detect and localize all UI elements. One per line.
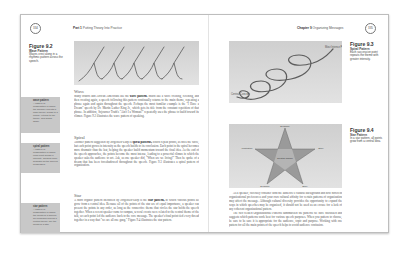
margin-definition-wave: wave pattern A pattern of organization i… [21,97,60,133]
wave-diagram-icon [74,41,199,85]
figure-description: Each successive point repeats the theme … [350,51,386,61]
figure-description: In a star pattern, all points grow from … [350,137,386,144]
running-head-right: Chapter 9 Organizing Messages [297,26,343,30]
margin-definition-star: star pattern A pattern of organization i… [21,203,60,233]
spiral-diagram-icon: Central Concept Most Intense Point [229,41,342,103]
svg-text:Story: Story [318,147,324,150]
star-diagram-icon: Example Illustration Story Example Story… [229,124,342,188]
figure-description: Waves crest along in a rhythmic pattern … [29,53,63,63]
section-body-wave: Many orators and African Americans use t… [74,95,199,131]
textbook-spread: 334 Part 1 Putting Theory Into Practice … [20,14,389,233]
wave-pattern-figure [74,41,199,85]
svg-text:Example: Example [260,185,270,188]
margin-definition-spiral: spiral pattern A pattern of organization… [21,143,60,173]
running-head-title: Putting Theory Into Practice [83,26,122,30]
section-heading-spiral: Spiral [74,135,85,140]
running-head-title: Organizing Messages [313,26,344,30]
section-heading-wave: Wave [74,89,84,94]
paragraph-summary: The two related Organizational Patterns … [229,212,342,231]
running-head-left: Part 1 Putting Theory Into Practice [73,26,122,30]
svg-text:Most Intense Point: Most Intense Point [325,45,342,49]
page-number-right: 335 [365,23,376,34]
section-body-spiral: Another pattern suggested by Jorgensen-E… [74,141,199,188]
definition-text: A pattern of organization in which the s… [33,102,58,123]
svg-text:Example: Example [280,125,290,128]
spiral-pattern-figure: Central Concept Most Intense Point [229,41,342,103]
definition-text: A pattern of organization in which each … [33,148,58,166]
section-heading-star: Star [74,193,81,198]
svg-text:Story: Story [302,185,308,188]
svg-text:Illustration: Illustration [242,147,254,150]
page-number-left: 334 [30,23,41,34]
section-body-star: A third organic pattern identified by Jo… [74,199,199,231]
running-head-chapter: Chapter 9 [297,26,312,30]
figure-caption-wave: Figure 9.2 Wave Pattern Waves crest alon… [29,43,63,63]
svg-text:Central Concept: Central Concept [231,92,250,96]
figure-caption-star: Figure 9.4 Star Pattern In a star patter… [350,127,386,144]
star-pattern-figure: Example Illustration Story Example Story… [229,124,342,188]
definition-text: A pattern of organization in which the p… [33,208,58,226]
running-head-part: Part 1 [73,26,82,30]
svg-text:Central Theme: Central Theme [277,157,293,160]
page-gutter [208,15,209,232]
paragraph-culture: As a speaker, carefully consider both th… [229,192,342,212]
figure-caption-spiral: Figure 9.3 Spiral Pattern Each successiv… [350,41,386,61]
